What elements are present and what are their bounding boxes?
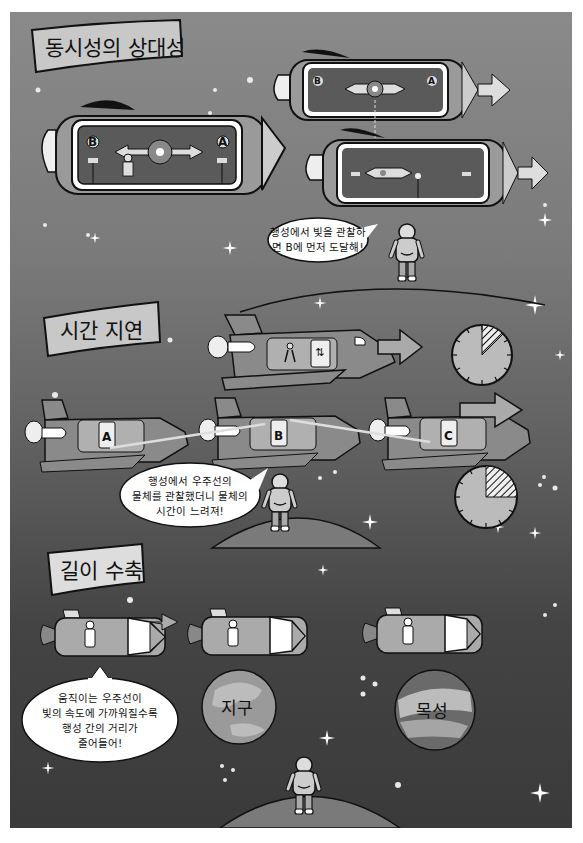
- svg-text:A: A: [218, 135, 228, 149]
- svg-text:B: B: [88, 135, 97, 149]
- rocket-lower-right: [306, 128, 548, 206]
- svg-text:C: C: [444, 429, 453, 443]
- planet-jupiter: 목성: [395, 670, 475, 750]
- planet-surface: [212, 518, 380, 548]
- illustration: 동시성의 상대성 B A B A: [10, 12, 572, 828]
- shuttle-a: A: [25, 400, 188, 472]
- banner-simultaneity: 동시성의 상대성: [32, 20, 185, 72]
- rocket-left: B A: [42, 100, 285, 194]
- astronaut: [391, 224, 422, 281]
- speech-bubble-1: 행성에서 빛을 관찰하 면 B에 먼저 도달해!: [268, 218, 378, 262]
- shuttle-top: ⇅: [208, 315, 395, 390]
- svg-text:물체를 관찰했더니 물체의: 물체를 관찰했더니 물체의: [132, 490, 249, 502]
- up-down-arrow-icon: ⇅: [315, 346, 324, 359]
- cylinder-ship-2: [188, 609, 308, 655]
- svg-text:길이 수축: 길이 수축: [60, 559, 143, 583]
- svg-text:시간이 느려져!: 시간이 느려져!: [156, 505, 224, 517]
- svg-text:움직이는 우주선이: 움직이는 우주선이: [58, 692, 141, 704]
- svg-text:B: B: [274, 429, 283, 443]
- banner-time-dilation: 시간 지연: [44, 302, 160, 356]
- speech-bubble-2: 행성에서 우주선의 물체를 관찰했더니 물체의 시간이 느려져!: [120, 463, 268, 527]
- svg-text:행성에서 빛을 관찰하: 행성에서 빛을 관찰하: [270, 226, 367, 238]
- svg-text:B: B: [314, 76, 321, 86]
- comic-panel: 동시성의 상대성 B A B A: [10, 12, 572, 828]
- svg-text:지구: 지구: [221, 698, 253, 718]
- svg-text:빛의 속도에 가까워질수록: 빛의 속도에 가까워질수록: [42, 707, 159, 719]
- speech-bubble-3: 움직이는 우주선이 빛의 속도에 가까워질수록 행성 간의 거리가 줄어들어!: [22, 666, 178, 762]
- rocket-top-right: B A: [274, 50, 510, 150]
- cylinder-ship-3: [363, 608, 483, 653]
- svg-text:면 B에 먼저 도달해!: 면 B에 먼저 도달해!: [272, 241, 363, 253]
- clock-small-elapsed: [452, 325, 512, 385]
- svg-text:A: A: [428, 76, 435, 86]
- banner-title: 동시성의 상대성: [45, 36, 185, 60]
- svg-text:행성에서 우주선의: 행성에서 우주선의: [148, 475, 231, 487]
- svg-text:목성: 목성: [416, 701, 448, 721]
- planet-earth: 지구: [202, 670, 276, 744]
- banner-length-contraction: 길이 수축: [48, 544, 144, 595]
- shuttle-b: B: [199, 398, 360, 470]
- svg-text:행성 간의 거리가: 행성 간의 거리가: [62, 722, 139, 734]
- svg-text:줄어들어!: 줄어들어!: [78, 737, 122, 749]
- clock-large-elapsed: [455, 466, 517, 528]
- planet-horizon: [240, 289, 545, 312]
- svg-text:시간 지연: 시간 지연: [60, 319, 143, 343]
- svg-text:A: A: [102, 430, 112, 444]
- cylinder-ship-1: [41, 610, 179, 656]
